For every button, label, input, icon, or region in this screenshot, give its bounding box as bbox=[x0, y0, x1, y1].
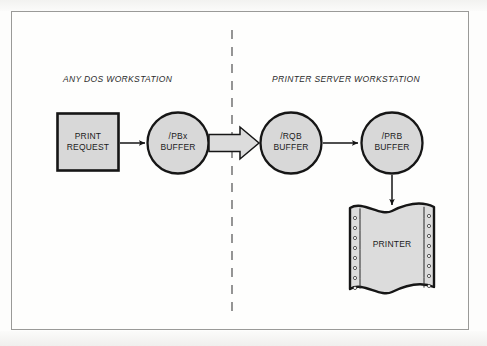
diagram-page: ANY DOS WORKSTATION PRINTER SERVER WORKS… bbox=[0, 0, 487, 346]
node-label-line2: BUFFER bbox=[260, 142, 322, 153]
node-label-line2: BUFFER bbox=[147, 142, 209, 153]
arrow-pbx-to-rqb bbox=[209, 127, 259, 159]
node-label-line1: PRINT bbox=[57, 131, 119, 142]
diagram-canvas bbox=[0, 0, 487, 346]
node-label-line1: PRINTER bbox=[361, 239, 423, 250]
node-label-print-request: PRINT REQUEST bbox=[57, 131, 119, 152]
section-label-printer-server-workstation: PRINTER SERVER WORKSTATION bbox=[272, 74, 420, 84]
node-label-prb-buffer: /PRB BUFFER bbox=[361, 131, 423, 152]
node-label-line2: BUFFER bbox=[361, 142, 423, 153]
node-label-line1: /PBx bbox=[147, 131, 209, 142]
node-label-line2: REQUEST bbox=[57, 142, 119, 153]
node-label-line1: /PRB bbox=[361, 131, 423, 142]
node-label-pbx-buffer: /PBx BUFFER bbox=[147, 131, 209, 152]
node-label-line1: /RQB bbox=[260, 131, 322, 142]
section-label-any-dos-workstation: ANY DOS WORKSTATION bbox=[63, 74, 172, 84]
node-label-rqb-buffer: /RQB BUFFER bbox=[260, 131, 322, 152]
node-label-printer: PRINTER bbox=[361, 239, 423, 250]
